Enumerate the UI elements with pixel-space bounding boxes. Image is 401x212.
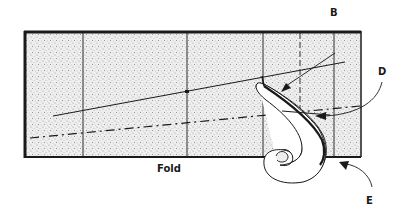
label-e: E [366, 195, 373, 206]
label-d: D [378, 66, 386, 77]
arrow-e [339, 161, 372, 187]
label-fold: Fold [157, 163, 181, 174]
pattern-diagram [0, 0, 401, 212]
label-b: B [330, 7, 338, 18]
